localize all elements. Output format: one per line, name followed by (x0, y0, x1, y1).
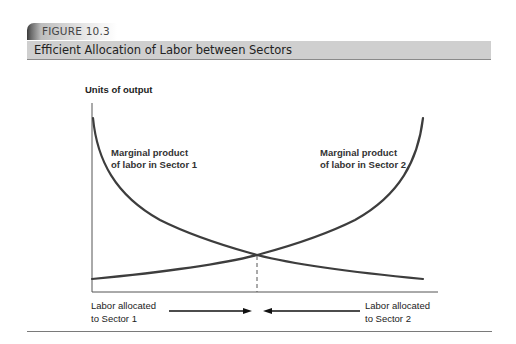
bottom-divider (27, 331, 492, 332)
sector1-curve-label-line2: of labor in Sector 1 (111, 159, 197, 171)
sector2-curve-label: Marginal product of labor in Sector 2 (320, 147, 406, 171)
arrow-left-icon (263, 308, 360, 314)
sector2-curve-label-line2: of labor in Sector 2 (320, 159, 406, 171)
x-axis-label-sector2-line1: Labor allocated (365, 299, 430, 312)
x-axis-label-sector1-line2: to Sector 1 (91, 312, 156, 325)
x-axis-label-sector2: Labor allocated to Sector 2 (365, 299, 430, 325)
sector1-curve-label-line1: Marginal product (111, 147, 197, 159)
sector1-curve-label: Marginal product of labor in Sector 1 (111, 147, 197, 171)
x-axis-label-sector2-line2: to Sector 2 (365, 312, 430, 325)
sector2-mpl-curve (92, 118, 423, 279)
sector2-curve-label-line1: Marginal product (320, 147, 406, 159)
arrow-right-icon (169, 308, 252, 314)
chart-plot-area (0, 0, 516, 344)
x-axis-label-sector1-line1: Labor allocated (91, 299, 156, 312)
x-axis-label-sector1: Labor allocated to Sector 1 (91, 299, 156, 325)
